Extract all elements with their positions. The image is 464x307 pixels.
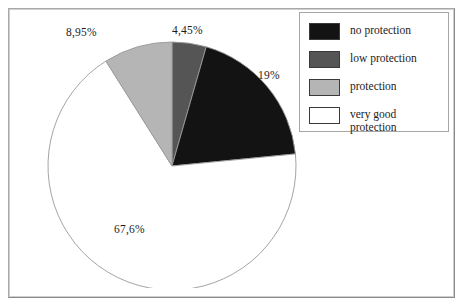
legend-swatch-very-good-protection <box>309 107 340 124</box>
slice-label-very-good-protection: 67,6% <box>114 223 145 235</box>
legend-item-no-protection: no protection <box>309 22 411 40</box>
slice-label-low-protection: 4,45% <box>172 24 203 36</box>
legend-label-protection: protection <box>350 78 397 93</box>
pie-chart-figure: 8,95% 4,45% 19% 67,6% no protection low … <box>0 0 464 307</box>
legend-label-no-protection: no protection <box>350 22 411 37</box>
legend-label-very-good-protection: very good protection <box>350 106 445 133</box>
legend-swatch-low-protection <box>309 51 340 68</box>
legend-label-low-protection: low protection <box>350 50 417 65</box>
pie-svg <box>20 20 300 288</box>
slice-label-protection: 8,95% <box>66 26 97 38</box>
legend-swatch-no-protection <box>309 23 340 40</box>
legend-item-low-protection: low protection <box>309 50 417 68</box>
legend-item-very-good-protection: very good protection <box>309 106 445 133</box>
legend-item-protection: protection <box>309 78 397 96</box>
legend-swatch-protection <box>309 79 340 96</box>
pie-plot-area: 8,95% 4,45% 19% 67,6% <box>20 20 300 288</box>
slice-label-no-protection: 19% <box>258 69 280 81</box>
legend: no protection low protection protection … <box>299 12 449 132</box>
